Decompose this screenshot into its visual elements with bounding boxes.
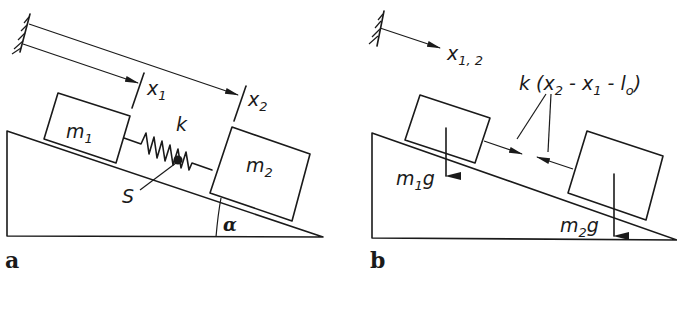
alpha-label: α	[223, 214, 237, 235]
mass-1-label: m1	[66, 120, 93, 146]
center-s-label: S	[122, 185, 134, 207]
panel-a: x1 x2 α m1 m2 k S a	[5, 14, 323, 273]
spring-force-arrow-left	[537, 157, 573, 169]
panel-b-label: b	[370, 247, 385, 273]
x2-measure-line	[29, 24, 246, 121]
x12-label: x1, 2	[446, 42, 483, 68]
x1-measure-line	[23, 44, 144, 108]
force-leader-line-1	[517, 94, 546, 139]
weight-2-label: m2g	[560, 214, 599, 240]
spring-k-label: k	[176, 113, 188, 135]
spring-force-label: k (x2 - x1 - lo)	[519, 72, 641, 98]
panel-a-label: a	[5, 247, 19, 273]
mass-1-block-b	[405, 95, 490, 163]
x1-label: x1	[146, 77, 167, 103]
x2-label: x2	[247, 88, 268, 114]
fixed-wall-icon	[12, 14, 30, 54]
panel-b: x1, 2 k (x2 - x1 - lo) m1g m2g b	[369, 11, 677, 273]
force-leader-line-2	[548, 94, 551, 152]
angle-arc	[216, 198, 221, 237]
mass-2-label: m2	[246, 154, 273, 180]
spring	[124, 133, 212, 170]
x12-axis-arrow	[380, 28, 440, 48]
incline-wedge	[7, 131, 323, 237]
mechanics-figure: x1 x2 α m1 m2 k S a x1, 2 k	[0, 0, 677, 315]
spring-force-arrow-right	[484, 141, 522, 154]
mass-1-block	[44, 93, 130, 163]
weight-1-label: m1g	[396, 167, 435, 193]
